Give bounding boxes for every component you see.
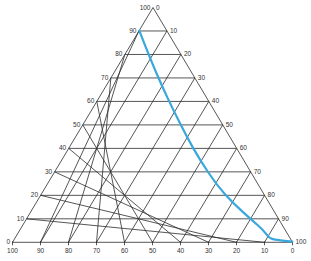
- bottom-axis-label: 70: [93, 247, 101, 254]
- right-axis-label: 20: [184, 50, 192, 57]
- bottom-axis-label: 40: [177, 247, 185, 254]
- grid-line-left-parallel: [97, 78, 195, 242]
- right-axis-label: 60: [240, 144, 248, 151]
- ternary-grid: [13, 8, 293, 246]
- grid-line-right-parallel: [27, 219, 265, 242]
- right-axis-label: 90: [282, 215, 290, 222]
- right-axis-label: 70: [254, 168, 262, 175]
- right-axis-label: 10: [170, 27, 178, 34]
- bottom-axis-label: 10: [261, 247, 269, 254]
- grid-line-right-parallel: [83, 125, 153, 242]
- left-axis-label: 10: [17, 215, 25, 222]
- bottom-axis-label: 60: [121, 247, 129, 254]
- bottom-axis-label: 90: [37, 247, 45, 254]
- left-axis-label: 80: [115, 50, 123, 57]
- bottom-axis-label: 80: [65, 247, 73, 254]
- right-axis-label: 100: [296, 238, 307, 245]
- axis-labels: 0102030405060708090100010203040506070809…: [6, 4, 306, 255]
- right-axis-label: 30: [198, 74, 206, 81]
- left-axis-label: 90: [129, 27, 137, 34]
- bottom-axis-label: 100: [7, 247, 18, 254]
- grid-line-right-parallel: [55, 172, 209, 242]
- left-axis-label: 30: [45, 168, 53, 175]
- bottom-axis-label: 0: [291, 247, 295, 254]
- bottom-axis-label: 20: [233, 247, 241, 254]
- bottom-axis-label: 30: [205, 247, 213, 254]
- left-axis-label: 20: [31, 191, 39, 198]
- right-axis-label: 0: [156, 4, 160, 11]
- left-axis-label: 60: [87, 97, 95, 104]
- right-axis-label: 40: [212, 97, 220, 104]
- right-axis-label: 80: [268, 191, 276, 198]
- left-axis-label: 0: [6, 238, 10, 245]
- right-axis-label: 50: [226, 121, 234, 128]
- ternary-diagram: 0102030405060708090100010203040506070809…: [0, 0, 311, 261]
- left-axis-label: 100: [140, 4, 151, 11]
- left-axis-label: 50: [73, 121, 81, 128]
- bottom-axis-label: 50: [149, 247, 157, 254]
- left-axis-label: 70: [101, 74, 109, 81]
- left-axis-label: 40: [59, 144, 67, 151]
